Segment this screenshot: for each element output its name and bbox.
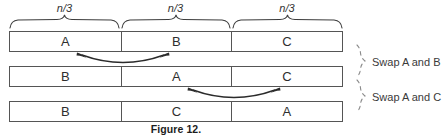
array-cell-r1-c3: C [232,32,342,51]
array-cell-r3-c1: B [10,102,121,121]
array-cell-r1-c1: A [10,32,121,51]
array-row-1: A B C [9,31,343,52]
swap-arc-a-c-icon [185,87,283,102]
array-row-3: B C A [9,101,343,122]
side-brace-2-icon [354,79,370,113]
segment-size-label-1-text: n/3 [57,2,72,14]
figure-caption: Figure 12. [9,123,343,135]
array-cell-r2-c1: B [10,67,121,86]
array-row-2: B A C [9,66,343,87]
array-cell-r1-c2: B [121,32,232,51]
segment-size-label-2-text: n/3 [168,2,183,14]
brace-segment-2-icon [122,15,230,28]
side-brace-1-icon [354,44,370,78]
figure-container: n/3 n/3 n/3 A B C B A C B C [0,0,446,135]
array-cell-r2-c2: A [121,67,232,86]
annotation-swap-a-and-c: Swap A and C [372,90,441,104]
array-cell-r3-c2: C [121,102,232,121]
array-cell-r3-c3: A [232,102,342,121]
segment-size-label-3-text: n/3 [279,2,294,14]
swap-arc-a-b-icon [74,52,172,67]
brace-segment-3-icon [233,15,342,28]
segment-braces-group [0,14,360,30]
brace-segment-1-icon [10,15,119,28]
annotation-swap-a-and-b: Swap A and B [372,55,441,69]
array-cell-r2-c3: C [232,67,342,86]
